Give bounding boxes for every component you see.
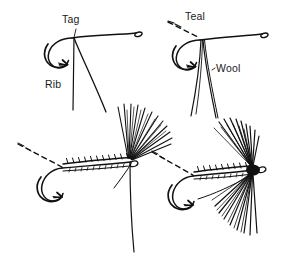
label-rib: Rib <box>45 78 61 90</box>
label-teal: Teal <box>185 10 205 22</box>
label-wool: Wool <box>216 62 241 74</box>
fly-tying-diagram: Tag Rib Teal Wool <box>0 0 281 261</box>
label-tag: Tag <box>62 13 80 25</box>
diagram-artwork <box>0 0 281 261</box>
